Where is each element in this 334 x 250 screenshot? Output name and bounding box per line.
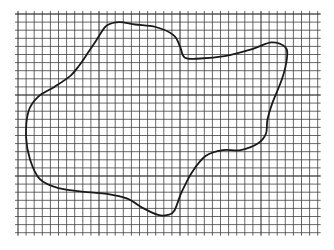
graph-paper-figure — [0, 0, 334, 250]
irregular-outline — [26, 22, 287, 215]
grid-canvas — [0, 0, 334, 250]
grid-lines — [15, 11, 321, 236]
